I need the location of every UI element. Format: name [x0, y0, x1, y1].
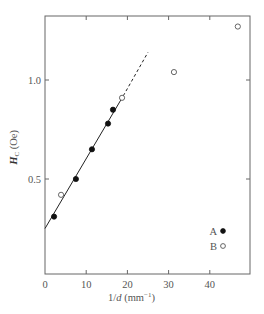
y-tick-label: 0.5: [28, 174, 41, 185]
data-point-b: [171, 69, 176, 74]
fit-line-solid: [45, 96, 123, 229]
x-axis-label: 1/d (mm−1): [108, 291, 155, 304]
data-point-b: [235, 24, 240, 29]
data-point-a: [73, 176, 78, 181]
fit-line-extrapolated: [123, 52, 148, 96]
data-point-a: [110, 107, 115, 112]
open-circle-icon: [221, 244, 226, 249]
fit-line: [45, 52, 148, 228]
data-point-b: [58, 192, 63, 197]
axes-box: [45, 16, 250, 274]
data-point-a: [89, 147, 94, 152]
data-point-a: [51, 214, 56, 219]
x-tick-label: 30: [163, 279, 174, 290]
y-tick-label: 1.0: [28, 75, 41, 86]
data-point-b: [119, 95, 124, 100]
x-tick-label: 40: [205, 279, 216, 290]
x-axis-ticks: 010203040: [42, 16, 215, 290]
y-axis-label: HC (Oe): [8, 129, 21, 165]
plot-frame: [45, 16, 250, 274]
data-points: [51, 24, 240, 219]
legend-label: A: [209, 226, 217, 237]
x-tick-label: 0: [42, 279, 47, 290]
y-axis-ticks: 0.51.0: [28, 75, 250, 185]
x-tick-label: 10: [81, 279, 92, 290]
filled-circle-icon: [221, 229, 226, 234]
x-tick-label: 20: [122, 279, 133, 290]
legend-label: B: [210, 241, 217, 252]
coercivity-chart: 010203040 0.51.0 AB 1/d (mm−1) HC (Oe): [0, 0, 264, 314]
legend: AB: [209, 226, 225, 252]
data-point-a: [105, 121, 110, 126]
